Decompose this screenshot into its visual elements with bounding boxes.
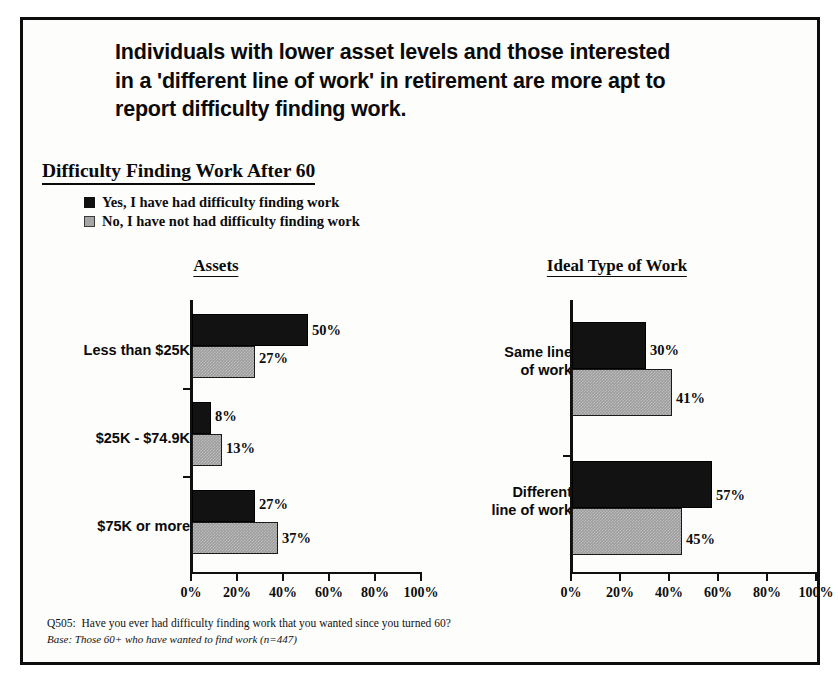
footnote: Q505: Have you ever had difficulty findi…	[47, 616, 747, 646]
x-axis-tick	[236, 572, 238, 581]
x-axis-tick	[815, 572, 817, 581]
x-axis-tick	[717, 572, 719, 581]
bar-value-yes-less-than-25k: 50%	[312, 322, 341, 339]
x-axis-label-40: 40%	[655, 585, 683, 601]
headline-line-2: in a 'different line of work' in retirem…	[115, 67, 755, 96]
plot-area-ideal-type-of-work: 30% 41% 57% 45% 0% 20% 40% 60% 80% 100%	[570, 300, 816, 600]
x-axis-tick	[668, 572, 670, 581]
black-square-icon	[84, 197, 95, 208]
x-axis-tick	[328, 572, 330, 581]
bar-value-yes-same-line-of-work: 30%	[650, 342, 679, 359]
bar-yes-25k-74-9k	[192, 402, 211, 434]
x-axis-tick	[766, 572, 768, 581]
bar-value-yes-25k-74-9k: 8%	[215, 408, 237, 425]
category-label-different-line-of-work: Different line of work	[437, 483, 572, 519]
x-axis-label-0: 0%	[561, 585, 582, 601]
y-axis-tick	[183, 388, 191, 390]
bar-no-same-line-of-work	[572, 369, 672, 416]
bar-value-no-25k-74-9k: 13%	[226, 440, 255, 457]
bar-yes-same-line-of-work	[572, 322, 646, 369]
x-axis-label-80: 80%	[753, 585, 781, 601]
footnote-base: Base: Those 60+ who have wanted to find …	[47, 632, 747, 647]
x-axis-line	[190, 572, 422, 575]
bar-yes-less-than-25k	[192, 314, 308, 346]
footnote-question: Q505: Have you ever had difficulty findi…	[47, 616, 747, 632]
legend-label-no: No, I have not had difficulty finding wo…	[102, 213, 360, 230]
x-axis-label-80: 80%	[361, 585, 389, 601]
bar-yes-75k-or-more	[192, 490, 255, 522]
x-axis-label-20: 20%	[223, 585, 251, 601]
headline-line-3: report difficulty finding work.	[115, 95, 755, 124]
bar-no-75k-or-more	[192, 522, 278, 554]
x-axis-tick	[282, 572, 284, 581]
x-axis-label-100: 100%	[404, 585, 439, 601]
bar-value-no-75k-or-more: 37%	[282, 530, 311, 547]
bar-value-yes-different-line-of-work: 57%	[716, 487, 745, 504]
bar-value-yes-75k-or-more: 27%	[259, 496, 288, 513]
chart-title-assets: Assets	[193, 256, 238, 277]
category-label-less-than-25k: Less than $25K	[30, 341, 190, 359]
page-title: Individuals with lower asset levels and …	[115, 38, 755, 124]
bar-no-different-line-of-work	[572, 508, 682, 555]
x-axis-label-60: 60%	[704, 585, 732, 601]
bar-value-no-less-than-25k: 27%	[259, 350, 288, 367]
x-axis-label-60: 60%	[315, 585, 343, 601]
x-axis-tick	[570, 572, 572, 581]
x-axis-tick	[190, 572, 192, 581]
x-axis-line	[570, 572, 816, 575]
y-axis-tick	[563, 455, 571, 457]
x-axis-tick	[420, 572, 422, 581]
gray-square-icon	[84, 216, 95, 227]
y-axis-tick	[183, 476, 191, 478]
legend-label-yes: Yes, I have had difficulty finding work	[102, 194, 339, 211]
bar-yes-different-line-of-work	[572, 461, 712, 508]
chart-title-ideal-type-of-work: Ideal Type of Work	[547, 256, 687, 277]
x-axis-label-20: 20%	[606, 585, 634, 601]
section-title: Difficulty Finding Work After 60	[42, 160, 315, 185]
legend-item-yes: Yes, I have had difficulty finding work	[84, 193, 360, 212]
plot-area-assets: 50% 27% 8% 13% 27% 37% 0% 20% 40% 60%	[190, 300, 422, 600]
x-axis-label-100: 100%	[799, 585, 834, 601]
x-axis-label-0: 0%	[181, 585, 202, 601]
category-label-25k-74-9k: $25K - $74.9K	[30, 429, 190, 447]
headline-line-1: Individuals with lower asset levels and …	[115, 38, 755, 67]
x-axis-label-40: 40%	[269, 585, 297, 601]
bar-no-less-than-25k	[192, 346, 255, 378]
chart-legend: Yes, I have had difficulty finding work …	[84, 193, 360, 231]
bar-no-25k-74-9k	[192, 434, 222, 466]
x-axis-tick	[619, 572, 621, 581]
bar-value-no-same-line-of-work: 41%	[676, 390, 705, 407]
category-label-75k-or-more: $75K or more	[30, 517, 190, 535]
slide-frame: Individuals with lower asset levels and …	[20, 17, 820, 665]
legend-item-no: No, I have not had difficulty finding wo…	[84, 212, 360, 231]
category-label-same-line-of-work: Same line of work	[437, 343, 572, 379]
bar-value-no-different-line-of-work: 45%	[686, 531, 715, 548]
x-axis-tick	[374, 572, 376, 581]
